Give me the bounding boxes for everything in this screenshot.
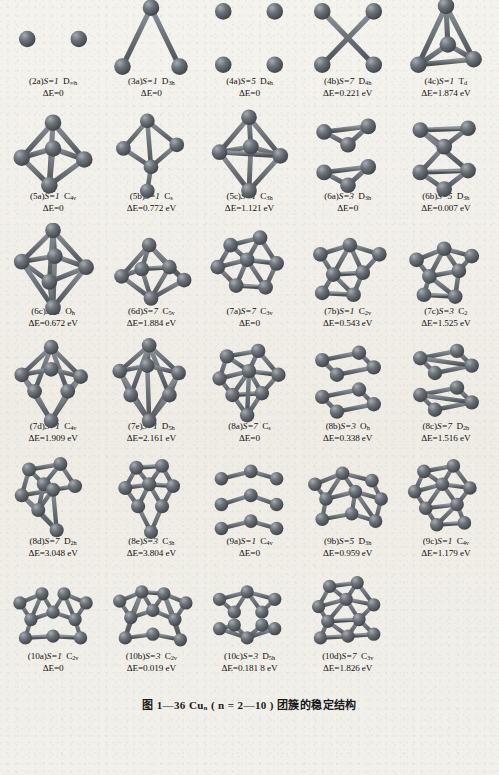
- cluster-structure-7d: [4, 347, 102, 421]
- cluster-structure-9b: [299, 462, 397, 536]
- cluster-cell-7c: (7c)S=3 C2ΔE=1.525 eV: [397, 232, 495, 347]
- cluster-cell-5a: (5a)S=1 C4vΔE=0: [4, 117, 102, 232]
- cluster-structure-5c: [200, 117, 298, 191]
- cluster-cell-10c: (10c)S=3 D5hΔE=0.181 8 eV: [200, 577, 298, 692]
- cluster-energy-6a: ΔE=0: [324, 203, 371, 214]
- cluster-energy-7c: ΔE=1.525 eV: [421, 318, 470, 329]
- cluster-cell-6b: (6b)S=5 D3hΔE=0.007 eV: [397, 117, 495, 232]
- cluster-structure-10d: [299, 577, 397, 651]
- cluster-structure-7e: [102, 347, 200, 421]
- cluster-energy-8e: ΔE=3.804 eV: [127, 548, 176, 559]
- cluster-energy-7a: ΔE=0: [226, 318, 272, 329]
- cluster-cell-8b: (8b)S=3 OhΔE=0.338 eV: [299, 347, 397, 462]
- cluster-cell-6d: (6d)S=7 C5vΔE=1.884 eV: [102, 232, 200, 347]
- cluster-energy-3a: ΔE=0: [128, 88, 175, 99]
- cluster-energy-9c: ΔE=1.179 eV: [421, 548, 470, 559]
- cluster-energy-5a: ΔE=0: [30, 203, 76, 214]
- cluster-energy-4b: ΔE=0.221 eV: [323, 88, 372, 99]
- cluster-cell-5b: (5b)S=1 CsΔE=0.772 eV: [102, 117, 200, 232]
- cluster-cell-7a: (7a)S=7 C3vΔE=0: [200, 232, 298, 347]
- cluster-figure-grid: (2a)S=1 D∞hΔE=0 (3a)S=1 D3hΔE=0 (4a)S=5 …: [0, 0, 499, 775]
- cluster-energy-4a: ΔE=0: [226, 88, 273, 99]
- cluster-structure-6a: [299, 117, 397, 191]
- cluster-structure-7a: [200, 232, 298, 306]
- cluster-structure-9a: [200, 462, 298, 536]
- cluster-energy-10d: ΔE=1.826 eV: [322, 663, 373, 674]
- cluster-structure-7b: [299, 232, 397, 306]
- cluster-cell-10d: (10d)S=7 C3vΔE=1.826 eV: [299, 577, 397, 692]
- cluster-structure-3a: [102, 2, 200, 76]
- cluster-energy-7b: ΔE=0.543 eV: [323, 318, 372, 329]
- cluster-energy-5b: ΔE=0.772 eV: [127, 203, 176, 214]
- cluster-energy-8b: ΔE=0.338 eV: [323, 433, 372, 444]
- cluster-energy-10c: ΔE=0.181 8 eV: [222, 663, 278, 674]
- cluster-structure-8d: [4, 462, 102, 536]
- cluster-energy-9b: ΔE=0.959 eV: [323, 548, 372, 559]
- cluster-structure-10c: [200, 577, 298, 651]
- cluster-structure-7c: [397, 232, 495, 306]
- cluster-cell-5c: (5c)S=1 C3hΔE=1.121 eV: [200, 117, 298, 232]
- cluster-cell-6c: (6c)S=1 OhΔE=0.672 eV: [4, 232, 102, 347]
- cluster-energy-6b: ΔE=0.007 eV: [421, 203, 470, 214]
- cluster-energy-7d: ΔE=1.909 eV: [28, 433, 77, 444]
- cluster-structure-4c: [397, 2, 495, 76]
- cluster-structure-4a: [200, 2, 298, 76]
- cluster-structure-8c: [397, 347, 495, 421]
- cluster-cell-7e: (7e)S=1 D5hΔE=2.161 eV: [102, 347, 200, 462]
- cluster-cell-4c: (4c)S=1 TdΔE=1.874 eV: [397, 2, 495, 117]
- cluster-cell-8a: (8a)S=7 CsΔE=0: [200, 347, 298, 462]
- cluster-cell-7b: (7b)S=1 C2vΔE=0.543 eV: [299, 232, 397, 347]
- cluster-energy-6c: ΔE=0.672 eV: [28, 318, 77, 329]
- cluster-structure-8b: [299, 347, 397, 421]
- cluster-cell-2a: (2a)S=1 D∞hΔE=0: [4, 2, 102, 117]
- cluster-energy-9a: ΔE=0: [226, 548, 272, 559]
- cluster-cell-9a: (9a)S=1 C4vΔE=0: [200, 462, 298, 577]
- cluster-structure-6c: [4, 232, 102, 306]
- cluster-structure-2a: [4, 2, 102, 76]
- cluster-structure-6b: [397, 117, 495, 191]
- figure-caption: 图 1—36 Cun ( n = 2—10 ) 团簇的稳定结构: [4, 692, 495, 775]
- cluster-cell-9b: (9b)S=5 D3hΔE=0.959 eV: [299, 462, 397, 577]
- cluster-energy-10b: ΔE=0.019 eV: [126, 663, 177, 674]
- cluster-cell-10a: (10a)S=1 C2vΔE=0: [4, 577, 102, 692]
- cluster-energy-5c: ΔE=1.121 eV: [225, 203, 274, 214]
- cluster-structure-5a: [4, 117, 102, 191]
- cluster-structure-10a: [4, 577, 102, 651]
- cluster-cell-8e: (8e)S=3 C3hΔE=3.804 eV: [102, 462, 200, 577]
- cluster-energy-2a: ΔE=0: [29, 88, 77, 99]
- cluster-structure-8e: [102, 462, 200, 536]
- cluster-structure-9c: [397, 462, 495, 536]
- figure-caption-text: 图 1—36 Cun ( n = 2—10 ) 团簇的稳定结构: [142, 696, 357, 712]
- cluster-cell-9c: (9c)S=1 C4vΔE=1.179 eV: [397, 462, 495, 577]
- cluster-structure-8a: [200, 347, 298, 421]
- cluster-cell-10b: (10b)S=3 C2vΔE=0.019 eV: [102, 577, 200, 692]
- cluster-energy-8a: ΔE=0: [228, 433, 270, 444]
- cluster-cell-4b: (4b)S=7 D4hΔE=0.221 eV: [299, 2, 397, 117]
- cluster-energy-8c: ΔE=1.516 eV: [421, 433, 470, 444]
- cluster-energy-10a: ΔE=0: [28, 663, 79, 674]
- cluster-cell-4a: (4a)S=5 D4hΔE=0: [200, 2, 298, 117]
- cluster-structure-10b: [102, 577, 200, 651]
- cluster-energy-6d: ΔE=1.884 eV: [127, 318, 176, 329]
- cluster-cell-8d: (8d)S=7 D2hΔE=3.048 eV: [4, 462, 102, 577]
- cluster-cell-8c: (8c)S=7 D2hΔE=1.516 eV: [397, 347, 495, 462]
- cluster-structure-6d: [102, 232, 200, 306]
- cluster-cell-6a: (6a)S=3 D3hΔE=0: [299, 117, 397, 232]
- cluster-structure-4b: [299, 2, 397, 76]
- cluster-energy-8d: ΔE=3.048 eV: [28, 548, 77, 559]
- cluster-structure-5b: [102, 117, 200, 191]
- cluster-cell-3a: (3a)S=1 D3hΔE=0: [102, 2, 200, 117]
- cluster-energy-4c: ΔE=1.874 eV: [421, 88, 470, 99]
- grid-spacer: [397, 577, 495, 692]
- cluster-cell-7d: (7d)S=1 C4vΔE=1.909 eV: [4, 347, 102, 462]
- cluster-energy-7e: ΔE=2.161 eV: [127, 433, 176, 444]
